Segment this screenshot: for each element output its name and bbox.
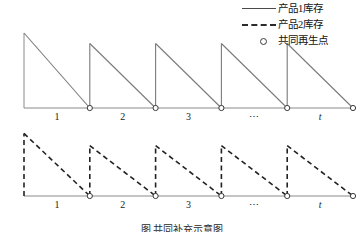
dashed-line-icon bbox=[238, 19, 278, 31]
legend-label-product2: 产品2库存 bbox=[278, 19, 323, 31]
legend-item-product1: 产品1库存 bbox=[238, 2, 360, 16]
legend-item-product2: 产品2库存 bbox=[238, 18, 360, 32]
inventory-figure: 产品1库存 产品2库存 共同再生点 123⋯t 123⋯t 图 共同补充示意图 bbox=[0, 0, 364, 232]
legend-label-replenishment: 共同再生点 bbox=[278, 35, 328, 47]
figure-caption: 图 共同补充示意图 bbox=[0, 221, 364, 232]
svg-text:t: t bbox=[319, 199, 322, 210]
svg-text:⋯: ⋯ bbox=[249, 111, 259, 122]
svg-text:1: 1 bbox=[54, 199, 59, 210]
chart-legend: 产品1库存 产品2库存 共同再生点 bbox=[238, 2, 360, 48]
svg-text:3: 3 bbox=[186, 199, 191, 210]
circle-marker-icon bbox=[238, 35, 278, 47]
svg-text:t: t bbox=[319, 111, 322, 122]
legend-item-replenishment: 共同再生点 bbox=[238, 34, 360, 48]
svg-text:2: 2 bbox=[120, 199, 125, 210]
lower-chart-product2: 123⋯t bbox=[24, 133, 356, 210]
svg-text:2: 2 bbox=[120, 111, 125, 122]
svg-text:1: 1 bbox=[54, 111, 59, 122]
solid-line-icon bbox=[238, 3, 278, 15]
svg-text:⋯: ⋯ bbox=[249, 199, 259, 210]
legend-label-product1: 产品1库存 bbox=[278, 3, 323, 15]
svg-text:3: 3 bbox=[186, 111, 191, 122]
